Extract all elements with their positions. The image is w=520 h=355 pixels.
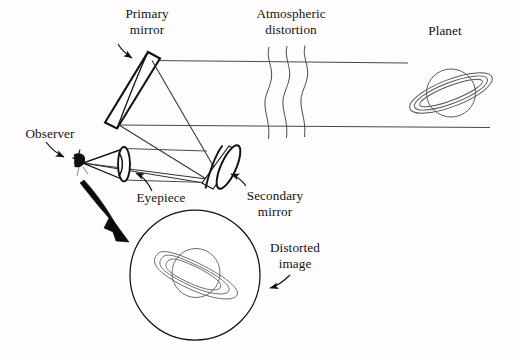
telescope-diagram: Primary mirror Atmospheric distortion Pl… bbox=[0, 0, 520, 355]
eyepiece-tube-top bbox=[124, 149, 207, 152]
label-planet: Planet bbox=[414, 23, 476, 38]
planet-ring-mid bbox=[411, 69, 491, 117]
wavy-line-icon bbox=[301, 46, 308, 138]
observer-body-stroke bbox=[77, 167, 79, 176]
eyepiece-callout-arrow-icon bbox=[136, 173, 152, 191]
primary-mirror-callout-arrow-icon bbox=[118, 44, 132, 58]
atmospheric-distortion-waves bbox=[265, 46, 308, 140]
secondary-mirror[interactable] bbox=[202, 142, 245, 191]
planet-ring-outer bbox=[405, 65, 497, 122]
label-secondary-mirror: Secondary mirror bbox=[237, 188, 313, 219]
wavy-line-icon bbox=[283, 46, 290, 138]
distorted-image-field[interactable] bbox=[130, 210, 260, 340]
planet-icon bbox=[405, 65, 497, 122]
ray-primary-top-to-secondary bbox=[152, 61, 222, 182]
observer-face-stroke-2 bbox=[74, 162, 85, 163]
wavy-line-icon bbox=[265, 47, 272, 139]
label-primary-mirror: Primary mirror bbox=[104, 6, 190, 37]
observer-head bbox=[74, 154, 85, 167]
diagram-canvas bbox=[0, 0, 520, 355]
distorted-image-circle[interactable] bbox=[130, 210, 260, 340]
beam-top-ray bbox=[152, 61, 408, 64]
ray-primary-bottom-to-secondary bbox=[119, 125, 216, 185]
thick-arrow-head bbox=[104, 216, 129, 242]
observer-callout-arrow-icon bbox=[46, 142, 64, 157]
distorted-image-callout-arrow-icon bbox=[270, 275, 290, 288]
primary-mirror[interactable] bbox=[105, 52, 160, 129]
thick-curved-arrow-icon bbox=[80, 180, 129, 242]
observer-body-stroke-2 bbox=[83, 167, 88, 174]
primary-mirror-surface-curve bbox=[117, 52, 148, 129]
label-distorted-image: Distorted image bbox=[257, 240, 333, 271]
label-eyepiece: Eyepiece bbox=[128, 190, 194, 205]
label-observer: Observer bbox=[16, 126, 84, 141]
label-atmospheric-distortion: Atmospheric distortion bbox=[235, 6, 347, 37]
incoming-light-beam bbox=[119, 61, 490, 128]
reflected-rays-secondary-to-eyepiece bbox=[83, 163, 222, 185]
eyepiece-lens-outer[interactable] bbox=[118, 147, 130, 181]
